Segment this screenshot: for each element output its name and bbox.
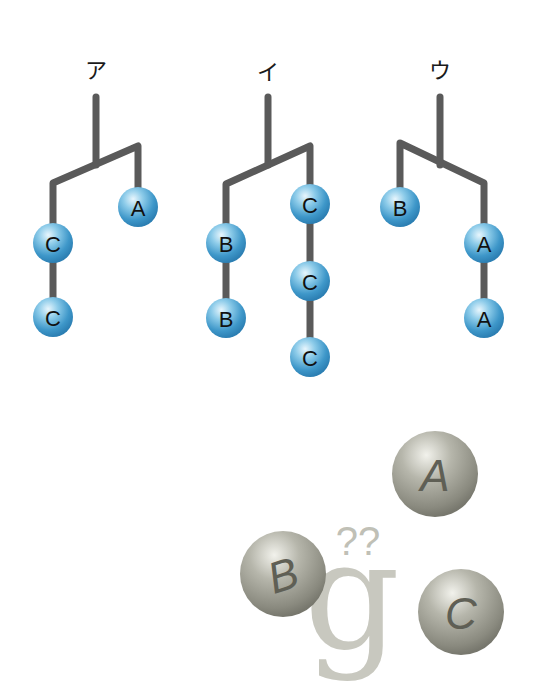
gray-sphere-a: A	[392, 431, 478, 517]
tree-label: ア	[85, 58, 107, 83]
node-sphere: C	[290, 261, 330, 301]
svg-text:C: C	[302, 270, 318, 295]
node-sphere: A	[464, 298, 504, 338]
svg-text:C: C	[302, 346, 318, 371]
svg-text:A: A	[131, 196, 146, 221]
tree-label: ウ	[429, 58, 451, 83]
svg-text:A: A	[417, 451, 449, 500]
gray-sphere-c: C	[418, 569, 504, 655]
tree-a: ア C C A	[33, 58, 158, 337]
node-sphere: A	[464, 223, 504, 263]
node-sphere: C	[290, 337, 330, 377]
node-sphere: C	[290, 184, 330, 224]
node-sphere: B	[206, 223, 246, 263]
svg-text:B: B	[219, 307, 234, 332]
tree-i: イ B B C C C	[206, 60, 330, 377]
svg-text:B: B	[219, 232, 234, 257]
node-sphere: C	[33, 223, 73, 263]
question-marks: ??	[336, 519, 381, 563]
tree-u: ウ B A A	[380, 58, 504, 338]
svg-text:C: C	[445, 589, 478, 638]
svg-text:C: C	[45, 232, 61, 257]
node-sphere: B	[380, 187, 420, 227]
node-sphere: A	[118, 187, 158, 227]
svg-text:C: C	[45, 306, 61, 331]
diagram-canvas: ア C C A イ B B C C C ウ B A A g ?? A	[0, 0, 541, 693]
node-sphere: B	[206, 298, 246, 338]
node-sphere: C	[33, 297, 73, 337]
svg-text:A: A	[477, 232, 492, 257]
gray-sphere-b: B	[240, 531, 326, 617]
tree-label: イ	[257, 60, 279, 85]
svg-text:C: C	[302, 193, 318, 218]
svg-text:A: A	[477, 307, 492, 332]
decorative-illustration: g ?? A B C	[240, 431, 504, 683]
svg-text:B: B	[393, 196, 408, 221]
